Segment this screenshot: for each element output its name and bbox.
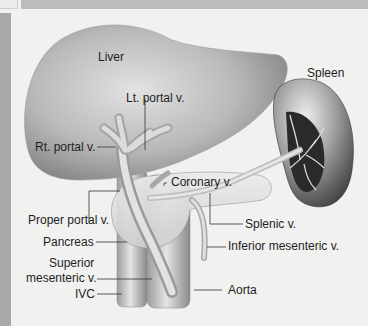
label-superior-mesenteric-v-line1: Superior: [49, 257, 94, 270]
label-inferior-mesenteric-v: Inferior mesenteric v.: [228, 240, 339, 253]
label-rt-portal-v: Rt. portal v.: [35, 141, 95, 154]
label-spleen: Spleen: [307, 67, 344, 80]
label-liver: Liver: [98, 51, 124, 64]
label-ivc: IVC: [75, 288, 95, 301]
label-lt-portal-v: Lt. portal v.: [126, 92, 184, 105]
label-pancreas: Pancreas: [43, 236, 94, 249]
label-proper-portal-v: Proper portal v.: [28, 214, 109, 227]
label-superior-mesenteric-v-line2: mesenteric v.: [26, 272, 96, 285]
label-splenic-v: Splenic v.: [245, 218, 296, 231]
label-coronary-v: Coronary v.: [171, 176, 232, 189]
label-aorta: Aorta: [228, 284, 257, 297]
